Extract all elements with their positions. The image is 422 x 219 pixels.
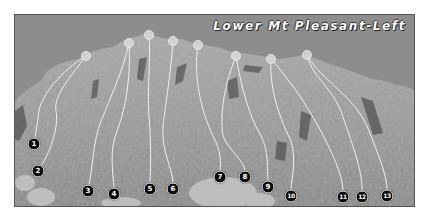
route-marker-4[interactable]: 4 <box>108 188 121 201</box>
route-marker-10[interactable]: 10 <box>285 190 298 203</box>
route-marker-13[interactable]: 13 <box>381 190 394 203</box>
route-marker-2[interactable]: 2 <box>32 165 45 178</box>
route-marker-1[interactable]: 1 <box>28 138 41 151</box>
route-marker-5[interactable]: 5 <box>144 183 157 196</box>
anchor-icon <box>124 38 134 48</box>
anchor-icon <box>302 50 312 60</box>
route-marker-12[interactable]: 12 <box>356 191 369 204</box>
route-marker-3[interactable]: 3 <box>82 185 95 198</box>
anchor-icon <box>168 36 178 46</box>
route-marker-6[interactable]: 6 <box>167 183 180 196</box>
crag-topo-photo: Lower Mt Pleasant-Left 1 2 3 4 5 6 7 8 9… <box>14 14 415 207</box>
anchor-icon <box>81 51 91 61</box>
route-marker-9[interactable]: 9 <box>262 181 275 194</box>
route-marker-11[interactable]: 11 <box>337 191 350 204</box>
anchor-icon <box>144 30 154 40</box>
route-marker-7[interactable]: 7 <box>214 171 227 184</box>
crag-title: Lower Mt Pleasant-Left <box>213 19 406 33</box>
anchor-icon <box>266 54 276 64</box>
anchor-icon <box>193 40 203 50</box>
anchor-icon <box>231 51 241 61</box>
route-marker-8[interactable]: 8 <box>239 171 252 184</box>
